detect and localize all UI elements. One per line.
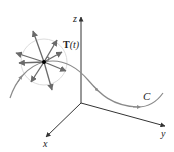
curve-direction-arrow [18,77,21,82]
curve-direction-arrow [93,86,97,90]
point-on-curve [42,60,46,64]
z-axis-label: z [72,13,77,24]
x-axis-label: x [42,138,48,149]
x-axis [46,103,81,137]
vector-star [16,31,66,90]
axes [46,17,165,137]
curve-c [10,61,163,107]
y-axis-label: y [160,128,166,139]
curve-label: C [143,90,151,102]
tangent-vector-diagram: z y x T(t) C [0,0,174,152]
tangent-vector-label: T(t) [63,39,80,51]
y-axis [81,103,165,126]
